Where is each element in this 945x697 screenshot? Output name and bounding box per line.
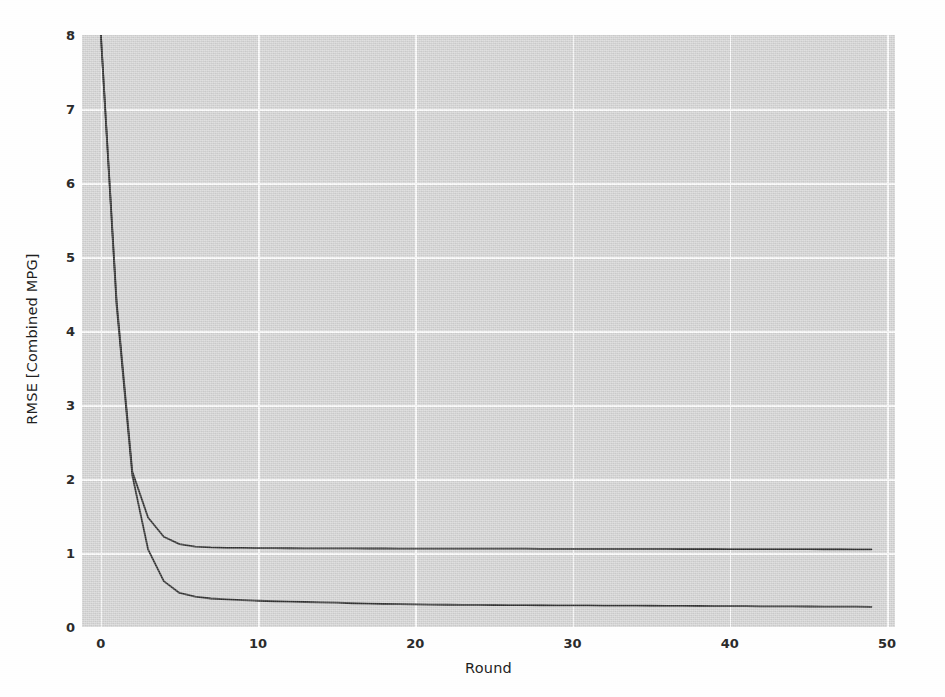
chart-figure: RMSE [Combined MPG] 012345678 Train Val … [0, 0, 945, 697]
x-tick-label-0: 0 [96, 636, 105, 651]
x-tick-label-40: 40 [721, 636, 739, 651]
x-tick-label-30: 30 [564, 636, 582, 651]
x-tick-label-20: 20 [406, 636, 424, 651]
line-series-train [101, 35, 872, 607]
y-tick-label-6: 6 [45, 176, 75, 191]
y-tick-label-8: 8 [45, 28, 75, 43]
x-tick-label-10: 10 [249, 636, 267, 651]
x-tick-label-50: 50 [878, 636, 896, 651]
x-axis-label: Round [82, 660, 895, 676]
y-tick-label-1: 1 [45, 546, 75, 561]
y-axis-tick-labels: 012345678 [42, 35, 75, 627]
y-tick-label-4: 4 [45, 324, 75, 339]
y-tick-label-0: 0 [45, 620, 75, 635]
y-axis-label: RMSE [Combined MPG] [24, 79, 40, 599]
y-tick-label-7: 7 [45, 102, 75, 117]
x-axis-tick-labels: 01020304050 [82, 636, 895, 656]
line-series-val [101, 35, 872, 549]
y-tick-label-5: 5 [45, 250, 75, 265]
y-tick-label-2: 2 [45, 472, 75, 487]
plot-area: Train Val [82, 35, 895, 627]
series-lines [82, 35, 895, 627]
y-tick-label-3: 3 [45, 398, 75, 413]
